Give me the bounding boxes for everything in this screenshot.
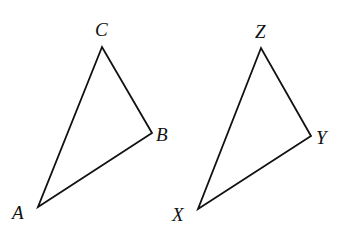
vertex-label-x: X xyxy=(171,204,185,225)
vertex-label-a: A xyxy=(10,202,24,223)
vertex-label-z: Z xyxy=(255,21,266,42)
triangle-xyz xyxy=(198,48,311,209)
vertex-label-c: C xyxy=(95,19,108,40)
triangle-abc xyxy=(38,47,152,207)
vertex-label-y: Y xyxy=(316,127,329,148)
vertex-label-b: B xyxy=(156,124,168,145)
diagram-canvas: A B C X Y Z xyxy=(0,0,347,245)
